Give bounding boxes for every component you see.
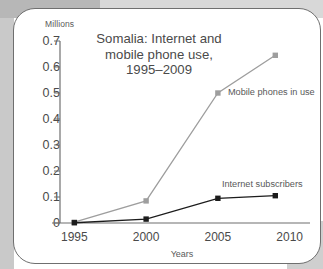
x-axis-tick-label: 2000 bbox=[133, 230, 160, 244]
series-annotation-label: Mobile phones in use bbox=[228, 87, 315, 97]
x-axis-tick-label: 2010 bbox=[276, 230, 303, 244]
chart-screenshot: Millions Somalia: Internet and mobile ph… bbox=[0, 0, 323, 269]
chart-svg bbox=[14, 9, 321, 264]
x-axis-title: Years bbox=[171, 249, 194, 259]
chart-card: Millions Somalia: Internet and mobile ph… bbox=[13, 8, 321, 264]
data-point-marker bbox=[273, 53, 278, 58]
y-axis-ticks bbox=[54, 41, 60, 223]
data-series-group bbox=[72, 53, 278, 226]
data-point-marker bbox=[215, 196, 220, 201]
data-point-marker bbox=[273, 193, 278, 198]
x-axis-tick-label: 1995 bbox=[61, 230, 88, 244]
data-point-marker bbox=[72, 220, 77, 225]
series-annotation-label: Internet subscribers bbox=[222, 179, 303, 189]
background-left-band bbox=[0, 0, 14, 269]
data-point-marker bbox=[143, 198, 148, 203]
data-point-marker bbox=[215, 90, 220, 95]
data-point-marker bbox=[143, 216, 148, 221]
plot-area: Millions Somalia: Internet and mobile ph… bbox=[14, 9, 321, 264]
series-line bbox=[74, 196, 275, 223]
x-axis-tick-label: 2005 bbox=[205, 230, 232, 244]
